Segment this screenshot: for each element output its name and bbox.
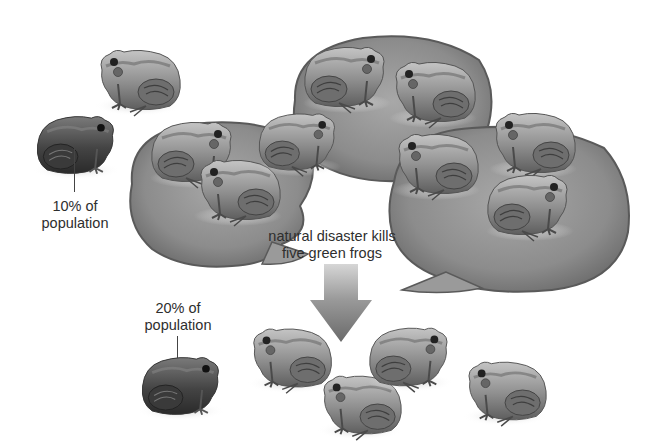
callout-10-line2: population bbox=[25, 215, 125, 232]
green-frog bbox=[458, 352, 556, 430]
callout-20-line2: population bbox=[128, 317, 228, 334]
callout-20-line1: 20% of bbox=[128, 300, 228, 317]
event-caption: natural disaster kills five green frogs bbox=[240, 228, 424, 262]
brown-frog bbox=[133, 346, 229, 426]
callout-20-percent: 20% of population bbox=[128, 300, 228, 334]
green-frog bbox=[360, 318, 458, 396]
brown-frog bbox=[28, 106, 124, 184]
event-line1: natural disaster kills bbox=[240, 228, 424, 245]
green-frog bbox=[388, 124, 488, 204]
callout-pointer-10 bbox=[74, 148, 75, 192]
callout-10-line1: 10% of bbox=[25, 198, 125, 215]
green-frog bbox=[385, 52, 485, 132]
green-frog bbox=[295, 37, 395, 117]
event-line2: five green frogs bbox=[240, 245, 424, 262]
green-frog bbox=[478, 165, 578, 245]
frog-diagram: 10% of population natural disaster kills… bbox=[0, 0, 645, 444]
callout-10-percent: 10% of population bbox=[25, 198, 125, 232]
